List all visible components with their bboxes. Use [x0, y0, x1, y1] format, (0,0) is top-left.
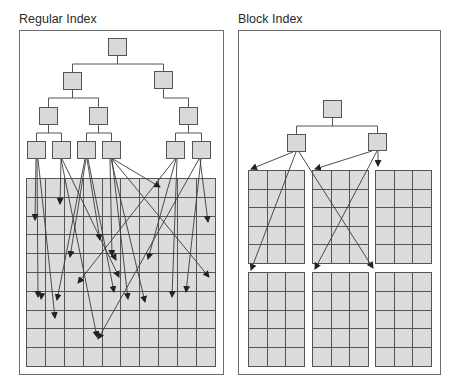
data-block-2: [312, 170, 369, 264]
grid-cell: [121, 348, 140, 367]
grid-cell: [332, 311, 351, 330]
grid-cell: [159, 179, 178, 198]
regular-leaf-node-2: [52, 141, 71, 159]
grid-cell: [313, 348, 332, 367]
grid-cell: [197, 311, 216, 330]
grid-cell: [159, 311, 178, 330]
grid-cell: [313, 208, 332, 227]
grid-cell: [395, 171, 414, 190]
regular-leaf-node-4: [102, 141, 121, 159]
grid-cell: [140, 273, 159, 292]
grid-cell: [376, 245, 395, 264]
grid-cell: [65, 311, 84, 330]
grid-cell: [84, 329, 103, 348]
grid-cell: [313, 292, 332, 311]
grid-cell: [395, 348, 414, 367]
grid-cell: [65, 254, 84, 273]
grid-cell: [332, 329, 351, 348]
grid-cell: [286, 292, 305, 311]
grid-cell: [140, 348, 159, 367]
grid-cell: [376, 208, 395, 227]
grid-cell: [249, 208, 268, 227]
grid-cell: [286, 171, 305, 190]
grid-cell: [395, 227, 414, 246]
grid-cell: [350, 292, 369, 311]
data-block-3: [375, 170, 432, 264]
grid-cell: [197, 329, 216, 348]
grid-cell: [65, 217, 84, 236]
grid-cell: [286, 329, 305, 348]
grid-cell: [46, 348, 65, 367]
grid-cell: [46, 179, 65, 198]
grid-cell: [376, 227, 395, 246]
grid-cell: [103, 179, 122, 198]
block-child-node-left: [287, 134, 306, 152]
regular-leaf-node-6: [192, 141, 211, 159]
grid-cell: [249, 273, 268, 292]
grid-cell: [178, 179, 197, 198]
block-child-node-right: [368, 133, 387, 151]
grid-cell: [376, 329, 395, 348]
grid-cell: [197, 348, 216, 367]
data-block-6: [375, 272, 432, 367]
grid-cell: [159, 329, 178, 348]
data-block-1: [248, 170, 305, 264]
grid-cell: [376, 171, 395, 190]
grid-cell: [140, 292, 159, 311]
grid-cell: [103, 235, 122, 254]
regular-root-node: [108, 38, 127, 56]
grid-cell: [268, 245, 287, 264]
grid-cell: [350, 208, 369, 227]
grid-cell: [197, 235, 216, 254]
grid-cell: [286, 245, 305, 264]
grid-cell: [376, 273, 395, 292]
grid-cell: [84, 235, 103, 254]
grid-cell: [103, 254, 122, 273]
grid-cell: [197, 292, 216, 311]
regular-l2-node-2: [89, 107, 108, 125]
grid-cell: [46, 217, 65, 236]
grid-cell: [395, 208, 414, 227]
grid-cell: [178, 254, 197, 273]
grid-cell: [249, 245, 268, 264]
grid-cell: [332, 171, 351, 190]
grid-cell: [197, 217, 216, 236]
grid-cell: [286, 190, 305, 209]
grid-cell: [121, 198, 140, 217]
grid-cell: [65, 179, 84, 198]
grid-cell: [140, 254, 159, 273]
grid-cell: [84, 348, 103, 367]
grid-cell: [332, 292, 351, 311]
grid-cell: [46, 198, 65, 217]
grid-cell: [178, 273, 197, 292]
grid-cell: [65, 198, 84, 217]
grid-cell: [413, 348, 432, 367]
grid-cell: [350, 171, 369, 190]
grid-cell: [178, 198, 197, 217]
regular-leaf-node-5: [166, 141, 185, 159]
grid-cell: [413, 292, 432, 311]
grid-cell: [268, 311, 287, 330]
grid-cell: [27, 254, 46, 273]
grid-cell: [197, 254, 216, 273]
block-index-title: Block Index: [238, 12, 303, 26]
grid-cell: [313, 329, 332, 348]
grid-cell: [121, 254, 140, 273]
grid-cell: [159, 273, 178, 292]
grid-cell: [286, 273, 305, 292]
grid-cell: [376, 311, 395, 330]
grid-cell: [121, 235, 140, 254]
grid-cell: [103, 311, 122, 330]
grid-cell: [46, 311, 65, 330]
grid-cell: [27, 348, 46, 367]
grid-cell: [249, 311, 268, 330]
grid-cell: [159, 198, 178, 217]
grid-cell: [268, 273, 287, 292]
grid-cell: [121, 329, 140, 348]
regular-leaf-node-1: [27, 141, 46, 159]
grid-cell: [413, 208, 432, 227]
grid-cell: [178, 348, 197, 367]
grid-cell: [84, 292, 103, 311]
grid-cell: [46, 254, 65, 273]
grid-cell: [350, 245, 369, 264]
